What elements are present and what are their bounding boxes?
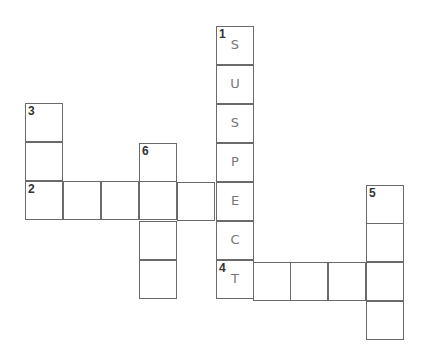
crossword-cell[interactable] (25, 142, 63, 181)
crossword-cell[interactable] (139, 260, 177, 299)
crossword-grid: 1SUSPEC4T3265 (0, 0, 426, 360)
crossword-cell[interactable] (139, 181, 177, 220)
crossword-cell[interactable] (177, 182, 215, 221)
crossword-cell[interactable]: 1S (216, 26, 254, 65)
crossword-cell[interactable]: 2 (25, 181, 63, 220)
crossword-cell[interactable]: 3 (25, 103, 63, 142)
crossword-cell[interactable] (366, 262, 404, 301)
cell-letter: T (217, 271, 253, 286)
cell-letter: P (217, 154, 253, 169)
clue-number: 5 (369, 186, 376, 200)
crossword-cell[interactable]: C (216, 221, 254, 260)
crossword-cell[interactable]: P (216, 143, 254, 182)
crossword-cell[interactable]: 6 (139, 143, 177, 182)
clue-number: 3 (28, 104, 35, 118)
crossword-cell[interactable] (328, 262, 366, 301)
crossword-cell[interactable] (139, 221, 177, 260)
crossword-cell[interactable] (253, 262, 291, 301)
crossword-cell[interactable] (366, 223, 404, 262)
crossword-cell[interactable]: S (216, 104, 254, 143)
crossword-cell[interactable]: 5 (366, 185, 404, 224)
cell-letter: S (217, 37, 253, 52)
crossword-cell[interactable] (366, 301, 404, 340)
crossword-cell[interactable] (63, 181, 101, 220)
cell-letter: E (217, 193, 253, 208)
clue-number: 6 (142, 144, 149, 158)
cell-letter: U (217, 76, 253, 91)
crossword-cell[interactable] (101, 181, 139, 220)
crossword-cell[interactable] (290, 262, 328, 301)
crossword-cell[interactable]: U (216, 65, 254, 104)
cell-letter: C (217, 232, 253, 247)
clue-number: 2 (28, 182, 35, 196)
crossword-cell[interactable]: 4T (216, 260, 254, 299)
crossword-cell[interactable]: E (216, 182, 254, 221)
cell-letter: S (217, 115, 253, 130)
